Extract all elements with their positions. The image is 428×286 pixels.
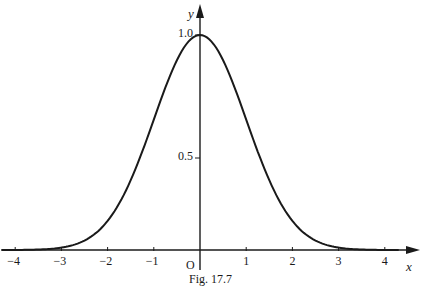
- x-tick-label: −1: [146, 255, 159, 267]
- x-tick-label: −2: [100, 255, 113, 267]
- x-tick-label: 2: [289, 255, 295, 267]
- x-tick-label: 4: [382, 255, 388, 267]
- x-tick-label: −4: [7, 255, 20, 267]
- figure-caption: Fig. 17.7: [189, 272, 232, 286]
- origin-label: O: [186, 259, 195, 271]
- x-tick-label: −3: [53, 255, 66, 267]
- y-tick-label: 0.5: [178, 150, 193, 162]
- x-tick-label: 1: [243, 255, 249, 267]
- y-axis-label: y: [188, 8, 194, 20]
- x-axis-label: x: [406, 261, 412, 273]
- axes: [2, 4, 420, 270]
- y-tick-label: 1.0: [178, 27, 193, 39]
- chart-canvas: [0, 0, 428, 286]
- x-tick-label: 3: [336, 255, 342, 267]
